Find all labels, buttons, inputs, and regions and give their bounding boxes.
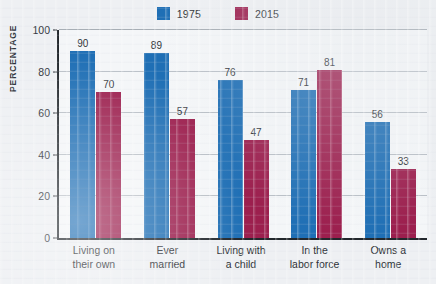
bar-1975-3[interactable]: 71 — [291, 90, 316, 238]
category-label-line: home — [351, 258, 425, 272]
plot-area: 90708957764771815633 — [57, 30, 427, 240]
category-label: Living witha child — [204, 244, 278, 271]
y-tick-mark-80 — [53, 71, 57, 72]
bar-group: 7647 — [218, 30, 269, 238]
y-tick-mark-100 — [53, 30, 57, 31]
bar-2015-4[interactable]: 33 — [391, 169, 416, 238]
bar-group: 7181 — [291, 30, 342, 238]
y-axis: 020406080100 — [0, 30, 57, 238]
bar-value-label: 71 — [298, 77, 309, 88]
bar-1975-0[interactable]: 90 — [70, 51, 95, 238]
bar-value-label: 70 — [103, 79, 114, 90]
bar-2015-2[interactable]: 47 — [244, 140, 269, 238]
x-axis-category-labels: Living ontheir ownEvermarriedLiving with… — [57, 244, 425, 284]
bar-1975-4[interactable]: 56 — [365, 122, 390, 238]
bar-value-label: 47 — [250, 127, 261, 138]
category-label: Living ontheir own — [57, 244, 131, 271]
category-label-line: Owns a — [351, 244, 425, 258]
bar-group: 9070 — [70, 30, 121, 238]
bar-value-label: 57 — [177, 106, 188, 117]
category-label-line: Ever — [131, 244, 205, 258]
category-label-line: labor force — [278, 258, 352, 272]
y-tick-label-100: 100 — [32, 24, 50, 36]
bar-value-label: 90 — [77, 38, 88, 49]
y-tick-label-40: 40 — [38, 149, 50, 161]
chart-legend: 1975 2015 — [0, 7, 436, 20]
category-label: Owns ahome — [351, 244, 425, 271]
category-label-line: married — [131, 258, 205, 272]
y-tick-label-60: 60 — [38, 107, 50, 119]
y-tick-mark-40 — [53, 154, 57, 155]
bar-2015-1[interactable]: 57 — [170, 119, 195, 238]
y-tick-mark-0 — [53, 238, 57, 239]
category-label-line: a child — [204, 258, 278, 272]
y-tick-label-0: 0 — [44, 232, 50, 244]
y-tick-label-80: 80 — [38, 66, 50, 78]
bar-group: 8957 — [144, 30, 195, 238]
bar-chart: 1975 2015 PERCENTAGE 020406080100 907089… — [0, 0, 436, 284]
bar-1975-1[interactable]: 89 — [144, 53, 169, 238]
legend-label-1975: 1975 — [177, 8, 201, 20]
legend-swatch-1975 — [157, 7, 170, 20]
y-tick-mark-60 — [53, 113, 57, 114]
legend-swatch-2015 — [235, 7, 248, 20]
bar-2015-0[interactable]: 70 — [96, 92, 121, 238]
bar-value-label: 56 — [372, 109, 383, 120]
category-label: Evermarried — [131, 244, 205, 271]
category-label-line: In the — [278, 244, 352, 258]
legend-item-2015: 2015 — [235, 7, 279, 20]
bar-value-label: 89 — [151, 40, 162, 51]
category-label-line: Living with — [204, 244, 278, 258]
category-label-line: their own — [57, 258, 131, 272]
legend-label-2015: 2015 — [255, 8, 279, 20]
category-label: In thelabor force — [278, 244, 352, 271]
category-label-line: Living on — [57, 244, 131, 258]
bar-value-label: 81 — [324, 57, 335, 68]
y-tick-label-20: 20 — [38, 190, 50, 202]
bar-value-label: 33 — [398, 156, 409, 167]
bar-group: 5633 — [365, 30, 416, 238]
bar-1975-2[interactable]: 76 — [218, 80, 243, 238]
legend-item-1975: 1975 — [157, 7, 201, 20]
bar-value-label: 76 — [224, 67, 235, 78]
y-tick-mark-20 — [53, 196, 57, 197]
bar-2015-3[interactable]: 81 — [317, 70, 342, 238]
